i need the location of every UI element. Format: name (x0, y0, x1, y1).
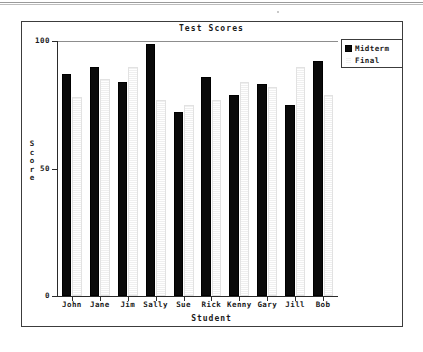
page-top-rule-upper (0, 2, 423, 3)
y-axis-tick-label-wrap: 50 (0, 164, 50, 174)
midterm-swatch-icon (345, 45, 352, 52)
bar-midterm-john (62, 74, 72, 296)
bar-final-jim (128, 67, 138, 297)
x-axis-title: Student (0, 314, 423, 323)
chart-legend[interactable]: Midterm Final (341, 39, 403, 68)
legend-label-final: Final (355, 56, 380, 65)
y-axis-tick-label: 100 (0, 36, 50, 45)
bar-final-bob (324, 95, 334, 296)
y-axis-tick-label: 0 (0, 291, 50, 300)
bar-midterm-jill (285, 105, 295, 296)
bar-final-gary (268, 87, 278, 296)
bar-final-john (72, 97, 82, 296)
x-axis-label-bob: Bob (301, 300, 345, 309)
bar-midterm-kenny (229, 95, 239, 296)
y-axis-tick (52, 296, 58, 297)
bar-midterm-sally (146, 44, 156, 296)
bar-midterm-bob (313, 61, 323, 296)
bar-midterm-rick (201, 77, 211, 296)
bar-final-jane (100, 79, 110, 296)
bar-midterm-sue (174, 112, 184, 296)
page-speck-artifact (277, 11, 279, 13)
bar-final-kenny (240, 82, 250, 296)
page-top-rule-lower (0, 4, 423, 5)
bar-final-jill (296, 67, 306, 297)
legend-entry-midterm[interactable]: Midterm (342, 42, 402, 54)
bar-final-rick (212, 100, 222, 296)
bar-midterm-jim (118, 82, 128, 296)
y-axis-title: Score (27, 140, 37, 183)
y-axis-tick-label: 50 (0, 164, 50, 173)
final-swatch-icon (345, 57, 352, 64)
plot-area (58, 41, 337, 296)
bar-midterm-gary (257, 84, 267, 296)
y-axis-tick-label-wrap: 100 (0, 36, 50, 46)
chart-screenshot: Test Scores Score 050100 JohnJaneJimSall… (0, 0, 423, 352)
bar-midterm-jane (90, 67, 100, 297)
bar-final-sue (184, 105, 194, 296)
y-axis-tick-label-wrap: 0 (0, 291, 50, 301)
legend-label-midterm: Midterm (355, 44, 389, 53)
chart-title: Test Scores (0, 24, 423, 33)
bar-final-sally (156, 100, 166, 296)
y-axis-title-letter: e (27, 174, 37, 183)
legend-entry-final[interactable]: Final (342, 54, 402, 66)
